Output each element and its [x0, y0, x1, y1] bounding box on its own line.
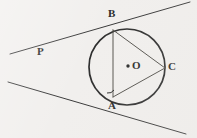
label-point-a: A [108, 100, 116, 111]
label-point-b: B [108, 8, 115, 19]
label-point-p: P [37, 46, 44, 57]
geometry-figure: B A C O P [0, 0, 197, 138]
label-point-c: C [168, 61, 176, 72]
center-dot-o [126, 64, 129, 67]
label-point-o: O [132, 60, 141, 71]
chord-ac [113, 68, 165, 97]
